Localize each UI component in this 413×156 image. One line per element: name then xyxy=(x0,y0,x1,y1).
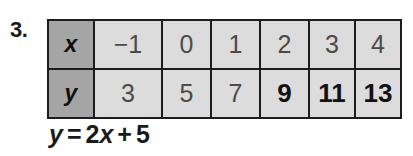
x-value-cell: 0 xyxy=(162,20,211,69)
x-value-cell: −1 xyxy=(94,20,162,69)
y-value-cell: 3 xyxy=(94,69,162,118)
equation-lhs-variable: y xyxy=(49,120,63,148)
equation-constant: 5 xyxy=(136,120,150,148)
y-answer-cell: 9 xyxy=(260,69,309,118)
equation-variable: x xyxy=(99,120,113,148)
x-value-cell: 1 xyxy=(211,20,260,69)
equation-equals-sign: = xyxy=(63,120,86,148)
equation-coefficient: 2 xyxy=(86,120,100,148)
y-value-cell: 5 xyxy=(162,69,211,118)
table-row-y: y 3 5 7 9 11 13 xyxy=(48,69,401,118)
y-answer-cell: 13 xyxy=(355,69,401,118)
row-header-x: x xyxy=(48,20,94,69)
problem-number: 3. xyxy=(10,17,27,43)
y-answer-cell: 11 xyxy=(309,69,355,118)
row-header-y: y xyxy=(48,69,94,118)
y-value-cell: 7 xyxy=(211,69,260,118)
equation-plus-sign: + xyxy=(113,120,136,148)
x-value-cell: 4 xyxy=(355,20,401,69)
x-value-cell: 2 xyxy=(260,20,309,69)
function-table: x −1 0 1 2 3 4 y 3 5 7 9 11 13 xyxy=(47,19,402,119)
table-row-x: x −1 0 1 2 3 4 xyxy=(48,20,401,69)
equation: y=2x+5 xyxy=(49,120,150,149)
worksheet-problem: 3. x −1 0 1 2 3 4 y 3 5 7 9 11 13 y xyxy=(0,0,413,156)
x-value-cell: 3 xyxy=(309,20,355,69)
